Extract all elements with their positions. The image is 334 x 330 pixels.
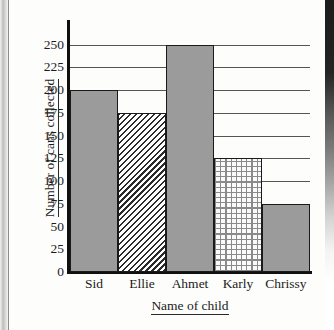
bar-ahmet[interactable]	[166, 45, 214, 272]
y-axis-tick-label: 25	[22, 242, 64, 256]
bar-karly[interactable]	[214, 158, 262, 272]
bars-group	[70, 22, 310, 272]
bar-sid[interactable]	[70, 90, 118, 272]
chart-page: 0255075100125150175200225250 SidEllieAhm…	[0, 0, 334, 330]
y-axis-tick-label: 0	[22, 265, 64, 279]
x-axis-tick-label: Ahmet	[166, 277, 214, 291]
x-axis-tick-label: Chrissy	[262, 277, 310, 291]
x-axis-title-text: Name of child	[151, 298, 228, 315]
x-axis-tick-label: Karly	[214, 277, 262, 291]
y-axis-title-wrap: Number of cans collected	[22, 0, 23, 1]
x-axis-tick-label: Ellie	[118, 277, 166, 291]
bar-chrissy[interactable]	[262, 204, 310, 272]
y-axis-title: Number of cans collected	[42, 58, 58, 238]
bar-ellie[interactable]	[118, 113, 166, 272]
x-axis-tick-label: Sid	[70, 277, 118, 291]
y-axis-title-text: Number of cans collected	[42, 79, 59, 217]
x-axis-title: Name of child	[70, 298, 310, 314]
x-axis-tick-labels: SidEllieAhmetKarlyChrissy	[70, 277, 310, 297]
bar-chart: 0255075100125150175200225250 SidEllieAhm…	[0, 0, 334, 330]
y-axis-tick-label: 250	[22, 38, 64, 52]
